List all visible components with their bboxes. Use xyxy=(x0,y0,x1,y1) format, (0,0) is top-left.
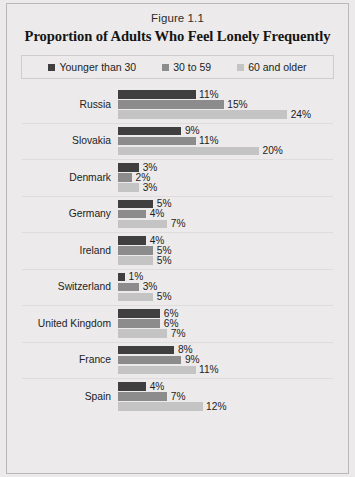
bar-value-label: 3% xyxy=(143,182,158,193)
bar-value-label: 11% xyxy=(199,364,219,375)
chart-plot-area: Russia11%15%24%Slovakia9%11%20%Denmark3%… xyxy=(0,86,355,415)
category-label: Ireland xyxy=(0,245,118,256)
bar xyxy=(118,392,167,401)
chart-category-group: Germany5%4%7% xyxy=(0,196,355,233)
bar-row: 7% xyxy=(118,392,355,401)
bar-row: 3% xyxy=(118,183,355,192)
bar xyxy=(118,319,160,328)
bar-value-label: 9% xyxy=(185,354,200,365)
category-label: Russia xyxy=(0,99,118,110)
bar xyxy=(118,137,196,146)
bar xyxy=(118,346,174,355)
bar-row: 15% xyxy=(118,100,355,109)
bar-value-label: 7% xyxy=(171,218,186,229)
category-label: Slovakia xyxy=(0,135,118,146)
bars-stack: 8%9%11% xyxy=(118,346,355,375)
bar-row: 7% xyxy=(118,329,355,338)
bars-stack: 1%3%5% xyxy=(118,273,355,302)
bar-row: 5% xyxy=(118,200,355,209)
bar-row: 5% xyxy=(118,246,355,255)
bar xyxy=(118,309,160,318)
legend-item: Younger than 30 xyxy=(48,61,136,73)
bars-stack: 4%7%12% xyxy=(118,382,355,411)
bar-row: 5% xyxy=(118,293,355,302)
bar xyxy=(118,163,139,172)
bar xyxy=(118,356,181,365)
legend-item-label: 60 and older xyxy=(248,61,306,73)
bar-row: 4% xyxy=(118,210,355,219)
chart-category-group: Ireland4%5%5% xyxy=(0,232,355,269)
bars-stack: 6%6%7% xyxy=(118,309,355,338)
bar-value-label: 5% xyxy=(157,291,172,302)
chart-category-group: France8%9%11% xyxy=(0,342,355,379)
legend-swatch-icon xyxy=(162,64,169,71)
legend-swatch-icon xyxy=(237,64,244,71)
bar xyxy=(118,183,139,192)
legend-swatch-icon xyxy=(48,64,55,71)
bar xyxy=(118,110,287,119)
chart-category-group: Denmark3%2%3% xyxy=(0,159,355,196)
bar-value-label: 7% xyxy=(171,328,186,339)
legend-item-label: 30 to 59 xyxy=(173,61,211,73)
bar-value-label: 20% xyxy=(263,145,283,156)
page-title: Proportion of Adults Who Feel Lonely Fre… xyxy=(0,28,355,45)
bar-row: 9% xyxy=(118,127,355,136)
bar xyxy=(118,382,146,391)
bar-value-label: 12% xyxy=(206,401,226,412)
bar-value-label: 3% xyxy=(143,281,158,292)
bar-row: 3% xyxy=(118,283,355,292)
category-label: Spain xyxy=(0,391,118,402)
bar-value-label: 7% xyxy=(171,391,186,402)
bar-row: 6% xyxy=(118,309,355,318)
bar xyxy=(118,246,153,255)
bar xyxy=(118,210,146,219)
bars-stack: 11%15%24% xyxy=(118,90,355,119)
bars-stack: 3%2%3% xyxy=(118,163,355,192)
bar-row: 11% xyxy=(118,137,355,146)
bar-value-label: 4% xyxy=(150,208,165,219)
bar-row: 3% xyxy=(118,163,355,172)
category-label: France xyxy=(0,354,118,365)
bars-stack: 9%11%20% xyxy=(118,127,355,156)
chart-category-group: Switzerland1%3%5% xyxy=(0,269,355,306)
bar-row: 1% xyxy=(118,273,355,282)
bar-value-label: 15% xyxy=(227,99,247,110)
category-label: United Kingdom xyxy=(0,318,118,329)
bar xyxy=(118,283,139,292)
bars-stack: 4%5%5% xyxy=(118,236,355,265)
bar xyxy=(118,200,153,209)
bar-row: 11% xyxy=(118,366,355,375)
bar-row: 5% xyxy=(118,256,355,265)
chart-category-group: United Kingdom6%6%7% xyxy=(0,305,355,342)
bar xyxy=(118,329,167,338)
bars-stack: 5%4%7% xyxy=(118,200,355,229)
bar xyxy=(118,256,153,265)
bar xyxy=(118,293,153,302)
bar-row: 11% xyxy=(118,90,355,99)
bar-value-label: 24% xyxy=(291,109,311,120)
category-label: Denmark xyxy=(0,172,118,183)
bar-row: 24% xyxy=(118,110,355,119)
bar-row: 7% xyxy=(118,220,355,229)
figure-panel: Figure 1.1 Proportion of Adults Who Feel… xyxy=(0,0,355,477)
bar-value-label: 1% xyxy=(129,271,144,282)
bar-row: 4% xyxy=(118,382,355,391)
bar-row: 9% xyxy=(118,356,355,365)
bar xyxy=(118,273,125,282)
figure-number: Figure 1.1 xyxy=(0,0,355,24)
bar xyxy=(118,127,181,136)
bar-value-label: 4% xyxy=(150,381,165,392)
legend-item-label: Younger than 30 xyxy=(59,61,136,73)
bar xyxy=(118,147,259,156)
category-label: Switzerland xyxy=(0,281,118,292)
bar xyxy=(118,173,132,182)
bar-value-label: 9% xyxy=(185,125,200,136)
bar xyxy=(118,220,167,229)
bar-value-label: 5% xyxy=(157,255,172,266)
bar-value-label: 11% xyxy=(199,135,219,146)
bar-row: 6% xyxy=(118,319,355,328)
chart-category-group: Russia11%15%24% xyxy=(0,86,355,123)
chart-legend: Younger than 3030 to 5960 and older xyxy=(21,55,334,79)
bar xyxy=(118,366,196,375)
bar xyxy=(118,100,224,109)
